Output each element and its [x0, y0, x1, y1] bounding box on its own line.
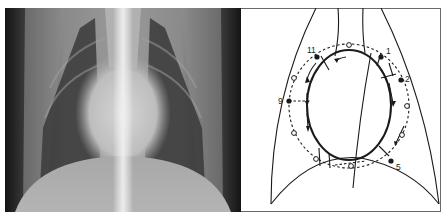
radiograph-image — [5, 8, 241, 212]
landmark-1-dot — [378, 54, 383, 59]
label-11: 11 — [307, 45, 316, 55]
clock-8-dot — [292, 131, 297, 136]
arrowhead — [305, 76, 310, 83]
vessel-descending — [353, 53, 371, 188]
clock-3-dot — [405, 104, 410, 109]
schematic-panel: 11 1 2 9 5 — [241, 8, 441, 212]
clock-4-dot — [400, 133, 405, 138]
left-thoracic-wall — [271, 8, 316, 204]
vessel-stub-1 — [319, 148, 320, 166]
vessel-left — [335, 8, 339, 56]
clock-10-dot — [292, 76, 297, 81]
arrowhead — [306, 126, 310, 132]
label-5: 5 — [396, 162, 401, 172]
landmark-11-dot — [314, 54, 319, 59]
spine — [113, 8, 133, 212]
clock-7-dot — [314, 157, 319, 162]
arrowhead — [305, 101, 309, 107]
tick-5 — [379, 146, 389, 156]
label-2: 2 — [405, 74, 410, 84]
schematic-diagram: 11 1 2 9 5 — [241, 8, 441, 212]
cardiac-ellipse — [307, 50, 391, 160]
clock-12-dot — [347, 43, 352, 48]
landmark-2-dot — [398, 77, 403, 82]
label-9: 9 — [278, 96, 283, 106]
landmark-5-dot — [388, 158, 393, 163]
right-thoracic-wall — [381, 8, 439, 204]
radiograph-panel — [5, 8, 241, 212]
arrow-1-2 — [389, 63, 393, 76]
label-1: 1 — [386, 46, 391, 56]
clock-6-dot — [349, 164, 354, 169]
landmark-9-dot — [286, 98, 291, 103]
arrowhead — [334, 58, 339, 63]
